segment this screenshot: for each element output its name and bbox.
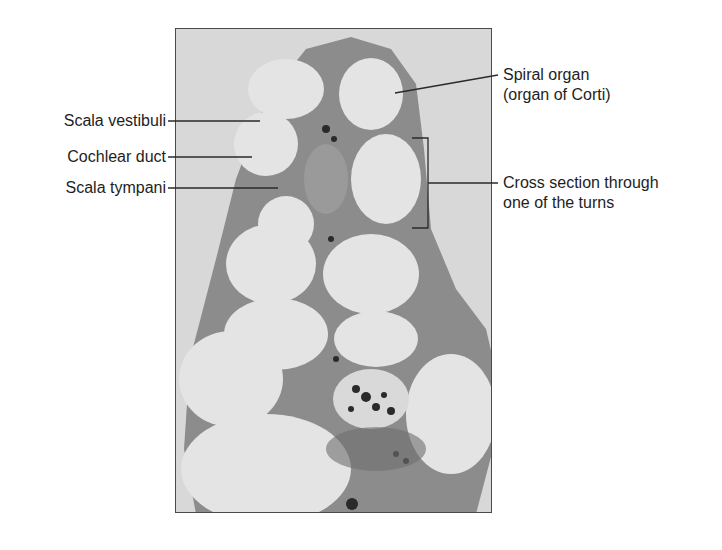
label-organ-of-corti: (organ of Corti) [503, 85, 611, 105]
label-scala-tympani: Scala tympani [30, 178, 166, 198]
label-cochlear-duct: Cochlear duct [30, 147, 166, 167]
cochlea-micrograph [175, 28, 492, 513]
label-one-of-turns: one of the turns [503, 193, 614, 213]
micrograph-image [176, 29, 492, 513]
cochlea-figure: Scala vestibuli Cochlear duct Scala tymp… [0, 0, 722, 550]
label-scala-vestibuli: Scala vestibuli [30, 111, 166, 131]
label-cross-section: Cross section through [503, 173, 659, 193]
label-spiral-organ: Spiral organ [503, 65, 589, 85]
